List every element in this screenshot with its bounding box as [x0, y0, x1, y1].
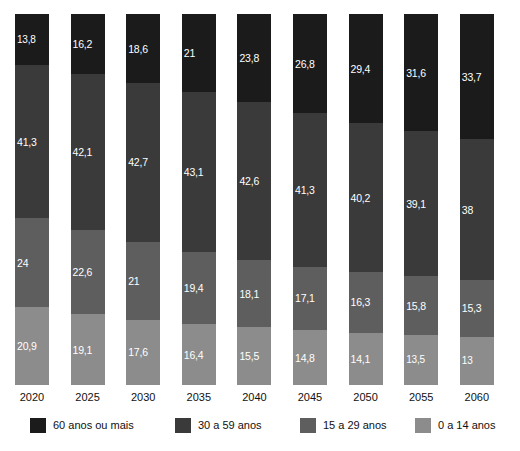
- bar-segment[interactable]: 31,6: [404, 14, 438, 131]
- bar-segment[interactable]: 38: [460, 139, 494, 280]
- bar-segment[interactable]: 43,1: [182, 92, 216, 252]
- legend-label: 0 a 14 anos: [438, 419, 496, 431]
- bar-segment-value-label: 23,8: [239, 53, 259, 64]
- legend-item[interactable]: 15 a 29 anos: [300, 416, 387, 434]
- legend-item[interactable]: 0 a 14 anos: [415, 416, 496, 434]
- bar-group-2035: 2143,119,416,4: [182, 14, 216, 385]
- bar-segment[interactable]: 24: [15, 218, 49, 307]
- legend-item[interactable]: 30 a 59 anos: [175, 416, 262, 434]
- bar-segment[interactable]: 15,8: [404, 276, 438, 335]
- bar-segment-value-label: 16,4: [184, 349, 204, 360]
- stacked-bar-chart: 13,841,32420,916,242,122,619,118,642,721…: [0, 0, 520, 451]
- bar-segment-value-label: 19,1: [73, 344, 93, 355]
- bar-group-2050: 29,440,216,314,1: [349, 14, 383, 385]
- bar-segment[interactable]: 21: [182, 14, 216, 92]
- bar-segment-value-label: 24: [17, 258, 28, 269]
- bar-segment[interactable]: 39,1: [404, 131, 438, 276]
- bar-segment[interactable]: 14,8: [293, 330, 327, 385]
- bar-group-2060: 33,73815,313: [460, 14, 494, 385]
- x-axis-tick-2060: 2060: [455, 391, 499, 403]
- legend-label: 60 anos ou mais: [53, 419, 134, 431]
- stacked-bar[interactable]: 33,73815,313: [460, 14, 494, 385]
- legend-swatch-icon: [30, 418, 46, 433]
- stacked-bar[interactable]: 29,440,216,314,1: [349, 14, 383, 385]
- bar-group-2030: 18,642,72117,6: [126, 14, 160, 385]
- stacked-bar[interactable]: 2143,119,416,4: [182, 14, 216, 385]
- bar-segment[interactable]: 40,2: [349, 123, 383, 272]
- bar-group-2055: 31,639,115,813,5: [404, 14, 438, 385]
- x-axis: 202020252030203520402045205020552060: [0, 388, 520, 410]
- bar-segment[interactable]: 15,5: [237, 327, 271, 385]
- bar-segment[interactable]: 41,3: [15, 65, 49, 218]
- bar-segment-value-label: 38: [462, 204, 473, 215]
- plot-area: 13,841,32420,916,242,122,619,118,642,721…: [0, 0, 520, 388]
- bar-segment[interactable]: 16,3: [349, 272, 383, 332]
- x-axis-tick-2050: 2050: [344, 391, 388, 403]
- stacked-bar[interactable]: 18,642,72117,6: [126, 14, 160, 385]
- bar-segment[interactable]: 17,1: [293, 267, 327, 330]
- bar-segment[interactable]: 18,1: [237, 260, 271, 327]
- bar-segment-value-label: 13,5: [406, 355, 425, 365]
- bar-segment-value-label: 42,6: [239, 176, 259, 187]
- bar-segment[interactable]: 13: [460, 337, 494, 385]
- bar-segment[interactable]: 41,3: [293, 113, 327, 266]
- bar-segment-value-label: 15,3: [462, 303, 482, 314]
- bar-segment[interactable]: 42,1: [71, 74, 105, 230]
- bar-segment-value-label: 42,7: [128, 157, 148, 168]
- bar-segment[interactable]: 26,8: [293, 14, 327, 113]
- bar-segment-value-label: 21: [128, 275, 139, 286]
- bar-segment[interactable]: 17,6: [126, 320, 160, 385]
- legend-label: 30 a 59 anos: [198, 419, 262, 431]
- bar-segment-value-label: 43,1: [184, 167, 204, 178]
- bar-segment[interactable]: 14,1: [349, 333, 383, 385]
- stacked-bar[interactable]: 26,841,317,114,8: [293, 14, 327, 385]
- bar-segment[interactable]: 33,7: [460, 14, 494, 139]
- bar-segment-value-label: 14,8: [295, 352, 315, 363]
- bar-segment[interactable]: 16,2: [71, 14, 105, 74]
- legend-swatch-icon: [175, 418, 191, 433]
- bar-segment-value-label: 29,4: [351, 63, 371, 74]
- bar-segment[interactable]: 19,4: [182, 252, 216, 324]
- bar-segment[interactable]: 21: [126, 242, 160, 320]
- x-axis-tick-2055: 2055: [399, 391, 443, 403]
- legend-item[interactable]: 60 anos ou mais: [30, 416, 134, 434]
- x-axis-tick-2040: 2040: [232, 391, 276, 403]
- x-axis-tick-2030: 2030: [121, 391, 165, 403]
- bar-segment-value-label: 19,4: [184, 283, 204, 294]
- stacked-bar[interactable]: 23,842,618,115,5: [237, 14, 271, 385]
- legend-swatch-icon: [415, 418, 431, 433]
- bar-segment-value-label: 17,1: [295, 293, 315, 304]
- stacked-bar[interactable]: 31,639,115,813,5: [404, 14, 438, 385]
- bar-segment-value-label: 17,6: [128, 347, 148, 358]
- bar-segment-value-label: 22,6: [73, 267, 93, 278]
- bar-segment-value-label: 41,3: [17, 137, 37, 148]
- bar-segment[interactable]: 22,6: [71, 230, 105, 314]
- x-axis-tick-2025: 2025: [66, 391, 110, 403]
- chart-legend: 60 anos ou mais30 a 59 anos15 a 29 anos0…: [0, 412, 520, 442]
- bar-segment[interactable]: 29,4: [349, 14, 383, 123]
- bar-segment-value-label: 15,5: [239, 351, 259, 362]
- bar-segment-value-label: 15,8: [406, 300, 426, 311]
- bar-segment-value-label: 31,6: [406, 67, 426, 78]
- bar-segment-value-label: 13: [462, 356, 473, 366]
- stacked-bar[interactable]: 16,242,122,619,1: [71, 14, 105, 385]
- bar-segment[interactable]: 19,1: [71, 314, 105, 385]
- bar-segment-value-label: 39,1: [406, 199, 426, 210]
- bar-segment[interactable]: 42,6: [237, 102, 271, 260]
- bar-segment[interactable]: 13,8: [15, 14, 49, 65]
- bar-segment[interactable]: 23,8: [237, 14, 271, 102]
- legend-swatch-icon: [300, 418, 316, 433]
- bar-segment-value-label: 14,1: [351, 354, 371, 365]
- bar-segment-value-label: 20,9: [17, 341, 37, 352]
- x-axis-tick-2035: 2035: [177, 391, 221, 403]
- bar-segment[interactable]: 18,6: [126, 14, 160, 83]
- legend-label: 15 a 29 anos: [323, 419, 387, 431]
- bar-segment[interactable]: 15,3: [460, 280, 494, 337]
- bar-segment-value-label: 26,8: [295, 58, 315, 69]
- bar-segment[interactable]: 42,7: [126, 83, 160, 242]
- bar-segment[interactable]: 20,9: [15, 307, 49, 385]
- bar-segment[interactable]: 16,4: [182, 324, 216, 385]
- bar-segment[interactable]: 13,5: [404, 335, 438, 385]
- stacked-bar[interactable]: 13,841,32420,9: [15, 14, 49, 385]
- bar-group-2020: 13,841,32420,9: [15, 14, 49, 385]
